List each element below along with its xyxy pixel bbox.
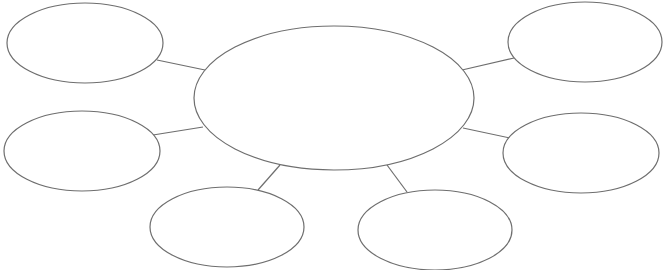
diagram-canvas	[0, 0, 663, 270]
connector-bottom-right-to-center	[387, 165, 407, 192]
ellipse-top-right[interactable]	[508, 2, 662, 82]
connector-top-right-to-center	[462, 58, 514, 70]
ellipse-top-left[interactable]	[7, 3, 163, 83]
bubble-bottom-left[interactable]	[150, 187, 304, 267]
ellipse-center[interactable]	[194, 26, 474, 170]
connector-bottom-left-to-center	[258, 165, 280, 190]
bubble-bottom-right[interactable]	[358, 190, 512, 270]
connector-middle-right-to-center	[463, 128, 510, 138]
bubble-middle-left[interactable]	[4, 111, 160, 191]
bubble-top-left[interactable]	[7, 3, 163, 83]
bubble-map-diagram	[0, 0, 663, 270]
connector-middle-left-to-center	[153, 127, 203, 135]
connector-top-left-to-center	[157, 60, 205, 70]
ellipse-middle-right[interactable]	[503, 113, 659, 193]
bubble-center[interactable]	[194, 26, 474, 170]
ellipse-bottom-right[interactable]	[358, 190, 512, 270]
bubble-top-right[interactable]	[508, 2, 662, 82]
ellipse-middle-left[interactable]	[4, 111, 160, 191]
bubble-middle-right[interactable]	[503, 113, 659, 193]
nodes-group	[4, 2, 662, 270]
ellipse-bottom-left[interactable]	[150, 187, 304, 267]
